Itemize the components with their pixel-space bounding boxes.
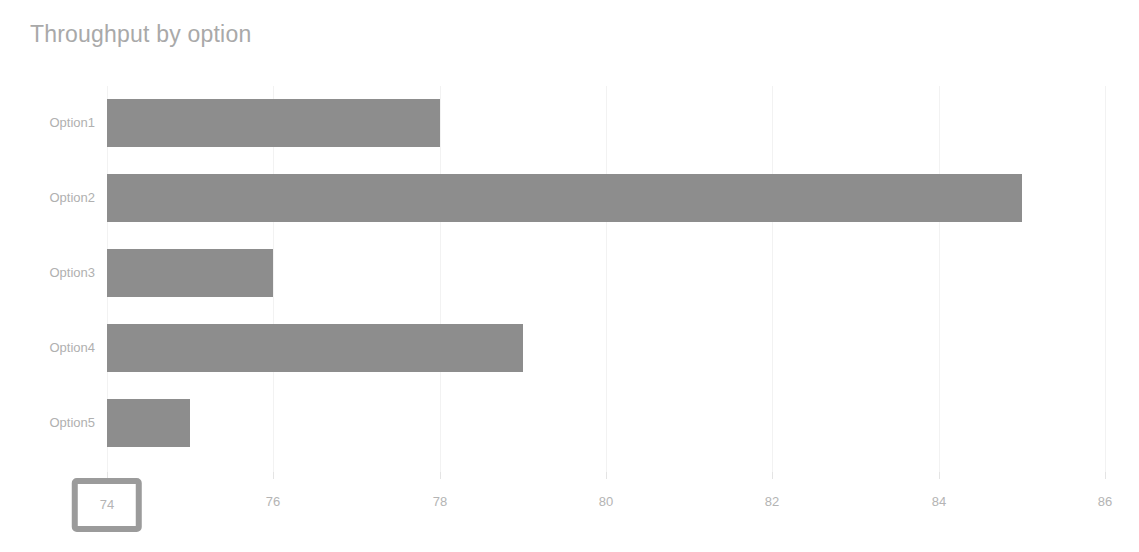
- x-tick-label-80[interactable]: 80: [599, 494, 613, 509]
- bar-row[interactable]: [107, 174, 1105, 222]
- bar-row[interactable]: [107, 99, 1105, 147]
- bar-option5[interactable]: [107, 399, 190, 447]
- x-tick-mark: [273, 472, 274, 479]
- x-tick-mark: [606, 472, 607, 479]
- y-tick-label-option3: Option3: [0, 265, 95, 280]
- bar-row[interactable]: [107, 249, 1105, 297]
- x-tick-label-84[interactable]: 84: [932, 494, 946, 509]
- y-axis: Option1Option2Option3Option4Option5: [0, 86, 95, 478]
- bar-option3[interactable]: [107, 249, 273, 297]
- y-tick-label-option2: Option2: [0, 190, 95, 205]
- bar-row[interactable]: [107, 399, 1105, 447]
- x-axis: 74767880828486: [107, 478, 1105, 538]
- x-tick-label-82[interactable]: 82: [765, 494, 779, 509]
- y-tick-label-option1: Option1: [0, 115, 95, 130]
- y-tick-label-option5: Option5: [0, 415, 95, 430]
- bar-option4[interactable]: [107, 324, 523, 372]
- x-tick-mark: [1105, 472, 1106, 479]
- x-tick-label-76[interactable]: 76: [266, 494, 280, 509]
- x-tick-label-86[interactable]: 86: [1098, 494, 1112, 509]
- x-tick-label-78[interactable]: 78: [433, 494, 447, 509]
- x-tick-label-74[interactable]: 74: [72, 478, 142, 532]
- bar-option1[interactable]: [107, 99, 440, 147]
- x-tick-mark: [939, 472, 940, 479]
- y-tick-label-option4: Option4: [0, 340, 95, 355]
- x-tick-mark: [440, 472, 441, 479]
- chart-title: Throughput by option: [30, 21, 251, 48]
- x-tick-mark: [772, 472, 773, 479]
- gridline: [1105, 86, 1106, 478]
- bar-row[interactable]: [107, 324, 1105, 372]
- plot-area: [107, 86, 1105, 478]
- chart-page: Throughput by option Option1Option2Optio…: [0, 0, 1139, 552]
- bar-option2[interactable]: [107, 174, 1022, 222]
